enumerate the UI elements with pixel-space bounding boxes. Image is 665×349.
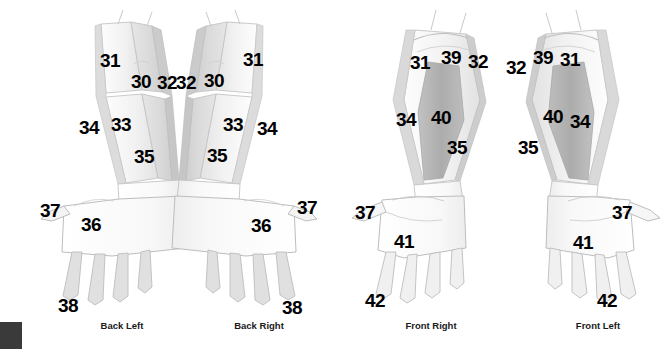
region-label-34: 34 <box>396 110 416 129</box>
region-label-30: 30 <box>204 71 224 90</box>
region-label-39: 39 <box>441 48 461 67</box>
region-label-32: 32 <box>468 52 488 71</box>
region-label-36: 36 <box>251 216 271 235</box>
region-label-35: 35 <box>447 138 467 157</box>
region-label-33: 33 <box>111 115 131 134</box>
region-label-35: 35 <box>518 138 538 157</box>
region-label-41: 41 <box>394 232 414 251</box>
region-label-37: 37 <box>297 198 317 217</box>
arm-region-diagram: 31 30 32 34 33 35 37 36 38 32 30 31 33 3… <box>0 0 665 349</box>
region-label-34: 34 <box>257 119 277 138</box>
region-label-32: 32 <box>176 73 196 92</box>
region-label-37: 37 <box>612 203 632 222</box>
region-label-34: 34 <box>79 118 99 137</box>
region-label-37: 37 <box>355 203 375 222</box>
region-label-31: 31 <box>243 50 263 69</box>
region-label-32: 32 <box>157 73 177 92</box>
region-label-31: 31 <box>560 50 580 69</box>
region-label-35: 35 <box>134 147 154 166</box>
corner-color-swatch <box>0 322 22 349</box>
region-label-40: 40 <box>543 107 563 126</box>
region-label-30: 30 <box>131 72 151 91</box>
view-caption-back-left: Back Left <box>101 320 144 331</box>
region-label-33: 33 <box>223 115 243 134</box>
region-label-31: 31 <box>100 51 120 70</box>
region-label-36: 36 <box>81 215 101 234</box>
view-caption-front-left: Front Left <box>576 320 620 331</box>
region-label-42: 42 <box>365 291 385 310</box>
region-label-39: 39 <box>533 48 553 67</box>
region-label-42: 42 <box>597 291 617 310</box>
region-label-41: 41 <box>573 233 593 252</box>
region-label-34: 34 <box>570 112 590 131</box>
region-label-35: 35 <box>207 146 227 165</box>
view-caption-front-right: Front Right <box>405 320 456 331</box>
region-label-38: 38 <box>282 298 302 317</box>
region-label-32: 32 <box>506 58 526 77</box>
region-label-31: 31 <box>410 53 430 72</box>
region-label-40: 40 <box>431 108 451 127</box>
view-caption-back-right: Back Right <box>234 320 284 331</box>
region-label-37: 37 <box>40 201 60 220</box>
region-label-38: 38 <box>58 296 78 315</box>
